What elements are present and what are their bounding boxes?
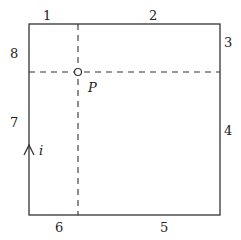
rectangle-boundary [29,24,220,215]
diagram-canvas: P i 1 2 3 4 5 6 7 8 [0,0,241,240]
edge-label-7: 7 [10,115,18,130]
edge-label-3: 3 [224,35,232,50]
edge-label-1: 1 [43,8,51,23]
point-p-marker [75,69,82,76]
edge-label-8: 8 [10,46,18,61]
edge-label-4: 4 [224,123,232,138]
point-label: P [87,80,97,95]
edge-label-5: 5 [160,220,168,235]
edge-label-2: 2 [149,8,157,23]
current-label: i [39,143,43,158]
edge-label-6: 6 [55,220,63,235]
